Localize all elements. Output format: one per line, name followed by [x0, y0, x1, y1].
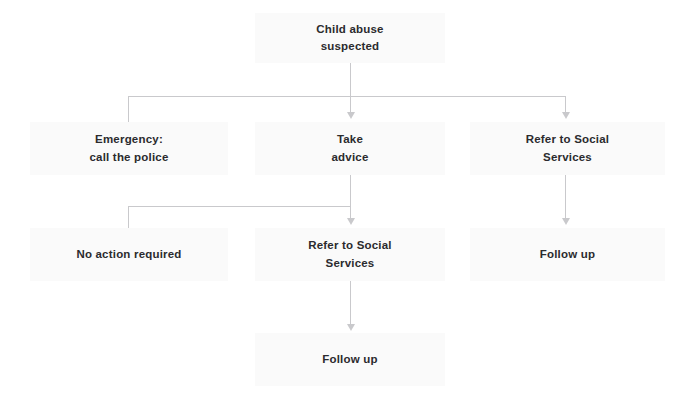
flowchart-diagram: Child abuse suspected Emergency: call th… — [0, 0, 695, 398]
edge-refer-right-to-followup — [565, 175, 566, 220]
edge-bus2-to-no-action — [128, 206, 129, 228]
arrowhead-take-advice — [347, 112, 355, 119]
edge-bus2-to-refer-middle — [350, 206, 351, 221]
node-emergency-call-police[interactable]: Emergency: call the police — [30, 122, 228, 175]
arrowhead-refer-right — [562, 112, 570, 119]
edge-branch-bus-2 — [128, 206, 351, 207]
edge-refer-mid-to-followup — [350, 281, 351, 326]
node-follow-up-right[interactable]: Follow up — [470, 228, 665, 281]
edge-bus-to-take-advice — [350, 96, 351, 115]
edge-root-to-bus — [350, 63, 351, 97]
node-follow-up-middle[interactable]: Follow up — [255, 333, 445, 386]
arrowhead-followup-right — [562, 218, 570, 225]
node-take-advice[interactable]: Take advice — [255, 122, 445, 175]
edge-bus-to-emergency — [128, 96, 129, 122]
edge-advice-to-bus2 — [350, 175, 351, 207]
arrowhead-refer-middle — [347, 218, 355, 225]
edge-bus-to-refer-right — [565, 96, 566, 115]
edge-branch-bus-1 — [128, 96, 566, 97]
node-no-action-required[interactable]: No action required — [30, 228, 228, 281]
node-refer-to-social-services-right[interactable]: Refer to Social Services — [470, 122, 665, 175]
arrowhead-followup-mid — [347, 324, 355, 331]
node-child-abuse-suspected[interactable]: Child abuse suspected — [255, 13, 445, 63]
node-refer-to-social-services-middle[interactable]: Refer to Social Services — [255, 228, 445, 281]
